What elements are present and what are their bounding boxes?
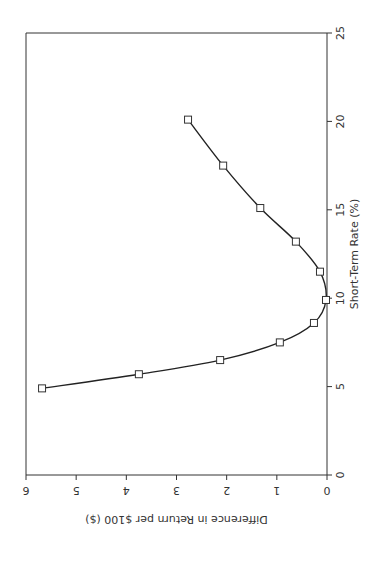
square-marker-icon (220, 162, 227, 169)
square-marker-icon (276, 339, 283, 346)
rotated-line-chart: 0510152025 0123456 Short-Term Rate (%) D… (0, 0, 384, 561)
x-tick-label: 10 (334, 291, 347, 305)
x-tick-label: 0 (334, 472, 347, 479)
x-tick-label: 25 (334, 26, 347, 40)
y-axis-ticks: 0123456 (23, 475, 331, 497)
x-tick-label: 20 (334, 114, 347, 128)
plot-frame (26, 33, 327, 475)
y-axis-title: Difference in Return per $100 ($) (85, 513, 268, 526)
y-tick-label: 0 (324, 484, 331, 497)
y-tick-label: 5 (73, 484, 80, 497)
square-marker-icon (185, 116, 192, 123)
square-marker-icon (292, 238, 299, 245)
square-marker-icon (310, 319, 317, 326)
data-curve (42, 120, 326, 389)
y-tick-label: 6 (23, 484, 30, 497)
y-tick-label: 4 (123, 484, 130, 497)
x-tick-label: 15 (334, 203, 347, 217)
square-marker-icon (316, 268, 323, 275)
square-marker-icon (322, 296, 329, 303)
x-axis-title: Short-Term Rate (%) (348, 199, 361, 309)
plot-border (26, 33, 327, 475)
x-tick-label: 5 (334, 383, 347, 390)
data-markers (39, 116, 330, 392)
y-tick-label: 2 (223, 484, 230, 497)
square-marker-icon (257, 205, 264, 212)
y-tick-label: 3 (173, 484, 180, 497)
square-marker-icon (135, 371, 142, 378)
x-axis-ticks: 0510152025 (327, 26, 347, 479)
y-tick-label: 1 (273, 484, 280, 497)
square-marker-icon (217, 357, 224, 364)
square-marker-icon (39, 385, 46, 392)
